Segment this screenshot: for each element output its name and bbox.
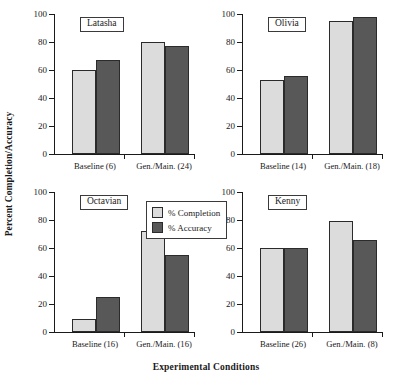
panel-latasha: Latasha 100 80 60 40 20 0 xyxy=(18,4,206,182)
bar-accuracy-baseline[interactable] xyxy=(284,248,308,332)
x-mid-tick xyxy=(312,154,313,159)
y-ticklabel-80: 80 xyxy=(226,215,235,225)
y-tick-60 xyxy=(237,248,242,249)
bar-completion-baseline[interactable] xyxy=(260,80,284,154)
y-ticklabel-80: 80 xyxy=(38,215,47,225)
y-tick-100 xyxy=(237,192,242,193)
y-tick-20 xyxy=(237,126,242,127)
x-axis-title: Experimental Conditions xyxy=(18,362,394,372)
bar-accuracy-baseline[interactable] xyxy=(96,297,120,332)
bar-completion-baseline[interactable] xyxy=(260,248,284,332)
x-ticklabel-baseline: Baseline (16) xyxy=(72,339,118,349)
y-ticklabel-0: 0 xyxy=(43,327,48,337)
x-end-tick xyxy=(382,154,383,159)
y-ticklabel-40: 40 xyxy=(38,93,47,103)
plot-area-kenny: 100 80 60 40 20 0 xyxy=(242,192,382,332)
legend-swatch-completion-icon xyxy=(152,207,163,218)
y-ticklabel-0: 0 xyxy=(231,149,236,159)
legend-item-completion[interactable]: % Completion xyxy=(152,205,220,220)
x-ticklabels-kenny: Baseline (26) Gen./Main. (8) xyxy=(242,339,383,353)
y-tick-0 xyxy=(237,332,242,333)
y-tick-60 xyxy=(49,248,54,249)
y-ticklabel-20: 20 xyxy=(38,299,47,309)
legend-swatch-accuracy-icon xyxy=(152,222,163,233)
y-axis-title: Percent Completion/Accuracy xyxy=(0,0,18,348)
y-ticklabel-60: 60 xyxy=(226,65,235,75)
x-mid-tick xyxy=(124,154,125,159)
bar-accuracy-genmain[interactable] xyxy=(165,255,189,332)
x-ticklabel-genmain: Gen./Main. (18) xyxy=(324,161,380,171)
y-ticklabel-0: 0 xyxy=(231,327,236,337)
y-ticklabel-20: 20 xyxy=(38,121,47,131)
x-ticklabel-baseline: Baseline (26) xyxy=(260,339,306,349)
bar-completion-baseline[interactable] xyxy=(72,70,96,154)
x-end-tick xyxy=(194,154,195,159)
y-tick-80 xyxy=(49,42,54,43)
y-ticklabel-100: 100 xyxy=(222,187,236,197)
y-tick-20 xyxy=(49,126,54,127)
bar-completion-genmain[interactable] xyxy=(141,42,165,154)
y-ticklabel-40: 40 xyxy=(226,271,235,281)
y-tick-60 xyxy=(237,70,242,71)
x-ticklabel-baseline: Baseline (6) xyxy=(74,161,116,171)
bar-completion-genmain[interactable] xyxy=(329,21,353,154)
x-ticklabels-octavian: Baseline (16) Gen./Main. (16) xyxy=(54,339,195,353)
y-tick-80 xyxy=(237,42,242,43)
y-tick-40 xyxy=(49,276,54,277)
bar-completion-genmain[interactable] xyxy=(141,231,165,332)
y-ticklabel-60: 60 xyxy=(38,243,47,253)
y-tick-100 xyxy=(49,14,54,15)
panel-grid: Latasha 100 80 60 40 20 0 xyxy=(18,4,394,360)
y-ticklabel-100: 100 xyxy=(34,187,48,197)
y-axis-title-text: Percent Completion/Accuracy xyxy=(4,112,14,237)
y-tick-0 xyxy=(237,154,242,155)
bar-accuracy-genmain[interactable] xyxy=(353,240,377,332)
y-ticklabel-40: 40 xyxy=(38,271,47,281)
x-ticklabels-olivia: Baseline (14) Gen./Main. (18) xyxy=(242,161,383,175)
bar-accuracy-baseline[interactable] xyxy=(96,60,120,154)
bar-accuracy-baseline[interactable] xyxy=(284,76,308,154)
figure-bar-chart-grid: Percent Completion/Accuracy Latasha 100 … xyxy=(0,0,394,383)
bar-completion-genmain[interactable] xyxy=(329,221,353,332)
bars-latasha xyxy=(55,14,195,154)
bars-kenny xyxy=(243,192,383,332)
x-ticklabel-genmain: Gen./Main. (8) xyxy=(326,339,377,349)
y-ticklabel-100: 100 xyxy=(222,9,236,19)
y-ticklabel-40: 40 xyxy=(226,93,235,103)
panel-kenny: Kenny 100 80 60 40 20 0 xyxy=(206,182,394,360)
bar-accuracy-genmain[interactable] xyxy=(165,46,189,154)
bar-completion-baseline[interactable] xyxy=(72,319,96,332)
y-tick-0 xyxy=(49,154,54,155)
y-tick-100 xyxy=(49,192,54,193)
y-tick-100 xyxy=(237,14,242,15)
y-tick-60 xyxy=(49,70,54,71)
y-ticklabel-100: 100 xyxy=(34,9,48,19)
y-ticklabel-80: 80 xyxy=(38,37,47,47)
x-end-tick xyxy=(194,332,195,337)
y-tick-0 xyxy=(49,332,54,333)
y-tick-40 xyxy=(237,276,242,277)
y-tick-80 xyxy=(237,220,242,221)
y-ticklabel-80: 80 xyxy=(226,37,235,47)
x-ticklabel-genmain: Gen./Main. (24) xyxy=(136,161,192,171)
y-ticklabel-60: 60 xyxy=(226,243,235,253)
y-tick-20 xyxy=(237,304,242,305)
x-mid-tick xyxy=(312,332,313,337)
y-tick-80 xyxy=(49,220,54,221)
y-ticklabel-20: 20 xyxy=(226,121,235,131)
bar-accuracy-genmain[interactable] xyxy=(353,17,377,154)
panel-olivia: Olivia 100 80 60 40 20 0 xyxy=(206,4,394,182)
x-ticklabel-baseline: Baseline (14) xyxy=(260,161,306,171)
legend-item-accuracy[interactable]: % Accuracy xyxy=(152,220,220,235)
y-tick-40 xyxy=(237,98,242,99)
bars-olivia xyxy=(243,14,383,154)
y-ticklabel-20: 20 xyxy=(226,299,235,309)
plot-area-latasha: 100 80 60 40 20 0 xyxy=(54,14,194,154)
y-ticklabel-0: 0 xyxy=(43,149,48,159)
legend-label-completion: % Completion xyxy=(168,208,220,218)
plot-area-olivia: 100 80 60 40 20 0 xyxy=(242,14,382,154)
y-ticklabel-60: 60 xyxy=(38,65,47,75)
y-tick-20 xyxy=(49,304,54,305)
x-end-tick xyxy=(382,332,383,337)
x-ticklabel-genmain: Gen./Main. (16) xyxy=(136,339,192,349)
